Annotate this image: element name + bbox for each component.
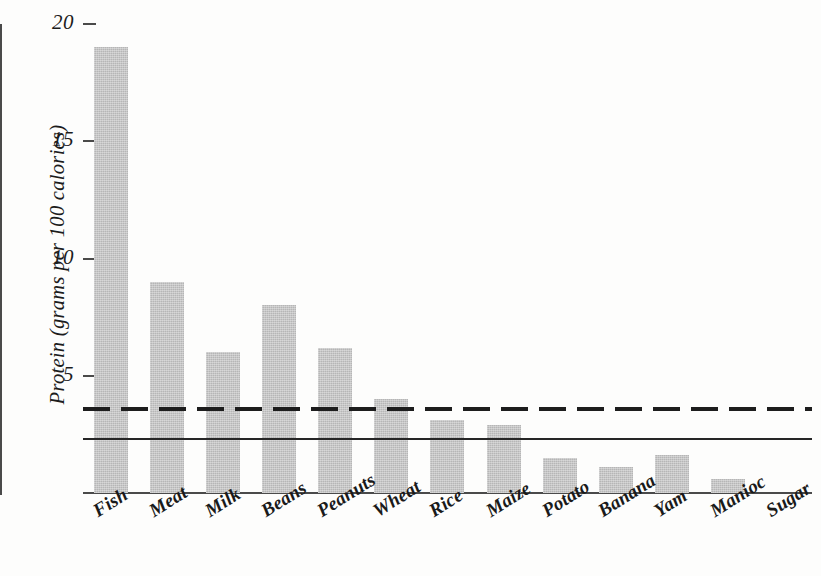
bar-milk bbox=[206, 352, 240, 493]
y-axis-tick-label-text: 15 bbox=[52, 127, 74, 151]
bar-meat bbox=[150, 282, 184, 493]
bars-group bbox=[83, 24, 812, 493]
figure-canvas: Protein (grams per 100 calories) 5101520… bbox=[0, 0, 821, 576]
solid-reference-line bbox=[83, 438, 812, 440]
bar-wheat bbox=[374, 399, 408, 493]
bar-yam bbox=[655, 455, 689, 493]
dashed-reference-line bbox=[83, 407, 812, 411]
y-axis-tick-label: 5 bbox=[26, 362, 74, 384]
bar-beans bbox=[262, 305, 296, 493]
y-axis-tick-label-text: 10 bbox=[52, 245, 74, 269]
y-axis-tick-label: 15 bbox=[26, 127, 74, 149]
bar-fish bbox=[94, 47, 128, 493]
y-axis-tick-label: 10 bbox=[26, 245, 74, 267]
y-axis-tick-label-text: 20 bbox=[52, 10, 74, 34]
bar-peanuts bbox=[318, 348, 352, 493]
x-axis-category-labels: FishMeatMilkBeansPeanutsWheatRiceMaizePo… bbox=[83, 497, 812, 576]
bar-rice bbox=[430, 420, 464, 493]
y-axis-tick-label-text: 5 bbox=[63, 362, 74, 386]
y-axis-line bbox=[0, 24, 2, 495]
y-axis-tick-label: 20 bbox=[26, 10, 74, 32]
